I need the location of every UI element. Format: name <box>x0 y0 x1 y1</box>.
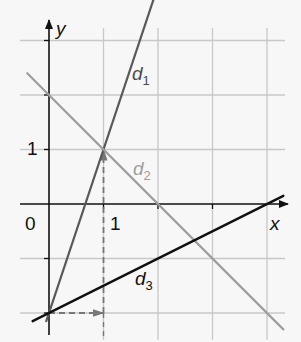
y-axis-label: y <box>54 18 67 39</box>
slope-construction-arrows <box>49 150 104 341</box>
coordinate-plot: y x 0 1 1 d1 d2 d3 <box>0 0 301 342</box>
d1-label: d1 <box>132 63 150 88</box>
y-tick-label-1: 1 <box>27 138 38 159</box>
origin-label: 0 <box>25 213 36 234</box>
axes <box>20 20 288 335</box>
d2-label: d2 <box>133 158 151 183</box>
labels: y x 0 1 1 d1 d2 d3 <box>25 18 281 293</box>
x-axis-label: x <box>269 213 281 234</box>
line-series <box>27 0 283 329</box>
grid-lines <box>20 28 285 340</box>
x-tick-label-1: 1 <box>110 213 121 234</box>
d3-label: d3 <box>135 268 153 293</box>
line-d2 <box>27 73 283 329</box>
